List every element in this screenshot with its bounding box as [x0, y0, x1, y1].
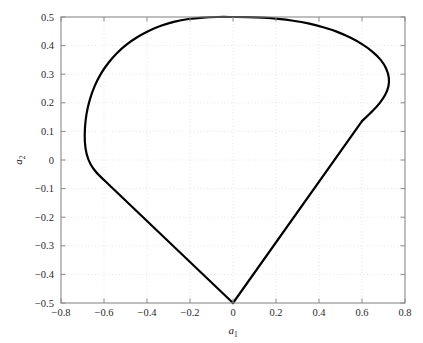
x-tick-label: −0.8	[51, 307, 70, 318]
x-tick-label: 0	[230, 307, 235, 318]
y-axis-title: a2	[12, 155, 27, 165]
chart-canvas: −0.8−0.6−0.4−0.200.20.40.60.8−0.5−0.4−0.…	[0, 0, 423, 343]
x-tick-label: −0.4	[137, 307, 157, 318]
x-tick-label: 0.4	[312, 307, 326, 318]
x-tick-label: 0.2	[269, 307, 282, 318]
y-tick-label: 0.4	[41, 40, 55, 51]
y-tick-label: −0.5	[35, 298, 54, 309]
y-tick-label: 0.2	[41, 97, 54, 108]
x-axis-title: a1	[228, 324, 238, 339]
y-tick-label: −0.1	[35, 183, 54, 194]
y-tick-label: 0.1	[41, 126, 54, 137]
y-tick-label: −0.3	[35, 240, 54, 251]
x-tick-label: −0.6	[94, 307, 113, 318]
figure-container: −0.8−0.6−0.4−0.200.20.40.60.8−0.5−0.4−0.…	[0, 0, 423, 343]
y-tick-label: 0.3	[41, 69, 54, 80]
x-tick-label: 0.8	[398, 307, 411, 318]
y-axis-title-subscript: 2	[18, 155, 27, 159]
y-tick-label: 0	[49, 155, 54, 166]
x-tick-label: −0.2	[180, 307, 199, 318]
y-tick-label: −0.2	[35, 212, 54, 223]
y-tick-label: 0.5	[41, 12, 54, 23]
x-axis-title-subscript: 1	[234, 330, 238, 339]
x-tick-label: 0.6	[355, 307, 368, 318]
y-tick-label: −0.4	[35, 269, 55, 280]
